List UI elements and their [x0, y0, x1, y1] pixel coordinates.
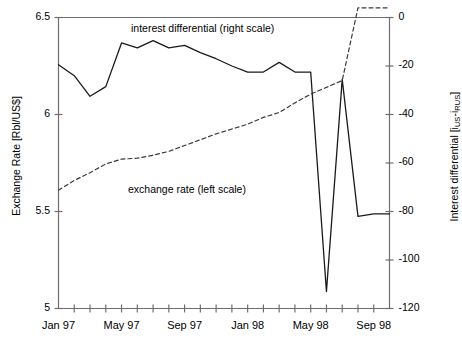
y-right-tick-label: -80	[399, 204, 445, 216]
y-right-tick-label: -60	[399, 155, 445, 167]
y-right-title-sub-rus: RUS	[453, 95, 462, 111]
y-left-tick-label: 6.5	[10, 10, 50, 22]
y-left-tick-label: 6	[10, 107, 50, 119]
y-right-title-sub-us: US	[453, 117, 462, 127]
series-line-exchange-rate	[59, 8, 390, 190]
x-tick-label: Sep 98	[334, 319, 414, 331]
y-right-tick-label: -100	[399, 252, 445, 264]
y-right-title-mid: -i	[448, 111, 460, 117]
y-right-title-suffix: ]	[448, 92, 460, 95]
chart-annotation-label: exchange rate (left scale)	[128, 183, 246, 195]
y-left-tick-label: 5	[10, 301, 50, 313]
y-axis-left-title: Exchange Rate [Rbl/US$]	[10, 61, 22, 251]
y-right-tick-label: -20	[399, 58, 445, 70]
data-series-group	[59, 8, 390, 292]
y-axis-right-title: Interest differential [iUS-iRUS]	[448, 62, 461, 252]
y-right-tick-label: -40	[399, 107, 445, 119]
y-right-tick-label: 0	[399, 10, 445, 22]
chart-annotation-label: interest differential (right scale)	[131, 22, 274, 34]
y-right-title-prefix: Interest differential [i	[448, 127, 460, 221]
y-left-tick-label: 5.5	[10, 204, 50, 216]
series-line-interest-differential	[59, 41, 390, 292]
y-right-tick-label: -120	[399, 301, 445, 313]
